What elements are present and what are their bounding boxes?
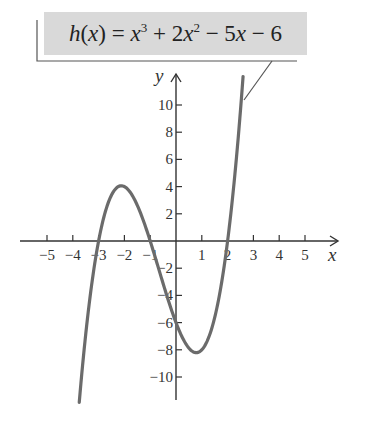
- x-tick-label: 1: [198, 247, 206, 263]
- y-tick-label: −6: [157, 315, 173, 331]
- x-tick-label: −5: [39, 247, 55, 263]
- label-frame: [37, 20, 297, 61]
- y-tick-label: 6: [166, 151, 174, 167]
- x-tick-label: 3: [250, 247, 258, 263]
- x-tick-label: −2: [116, 247, 132, 263]
- y-tick-label: 4: [166, 179, 174, 195]
- x-axis-label: x: [327, 244, 337, 265]
- x-tick-label: −4: [65, 247, 81, 263]
- y-tick-label: −8: [157, 342, 173, 358]
- y-tick-label: 10: [158, 97, 173, 113]
- leader-line: [244, 61, 272, 100]
- y-tick-label: −10: [150, 369, 173, 385]
- graph: xy −5−4−3−2−112345−10−8−6−4−2246810: [0, 0, 367, 421]
- y-axis-label: y: [153, 65, 164, 86]
- y-tick-label: 8: [166, 124, 174, 140]
- x-tick-label: 4: [275, 247, 283, 263]
- y-tick-label: 2: [166, 206, 174, 222]
- x-tick-label: 5: [301, 247, 309, 263]
